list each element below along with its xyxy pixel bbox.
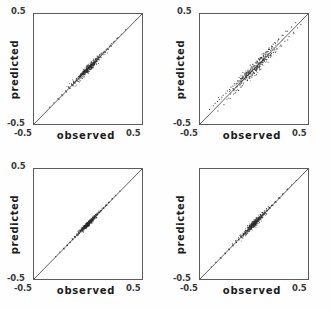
y-tick-min-label: -0.5 (173, 273, 191, 283)
y-tick-min-label: -0.5 (7, 273, 25, 283)
y-tick-max-label: 0.5 (177, 6, 191, 16)
x-tick-max-label: 0.5 (292, 128, 306, 138)
y-tick-min-label: -0.5 (173, 118, 191, 128)
x-tick-max-label: 0.5 (126, 283, 140, 293)
y-axis-title: predicted (175, 33, 186, 107)
y-tick-max-label: 0.5 (11, 161, 25, 171)
y-tick-min-label: -0.5 (7, 118, 25, 128)
plot-frame (33, 168, 143, 280)
scatter-points-group (49, 29, 126, 107)
scatter-canvas-2 (34, 169, 142, 279)
plot-area (34, 14, 142, 124)
scatter-canvas-0 (34, 14, 142, 124)
panel-top-left: 0.5 -0.5 predicted -0.5 0.5 observed (0, 0, 165, 154)
x-tick-max-label: 0.5 (126, 128, 140, 138)
scatter-canvas-3 (200, 169, 308, 279)
panel-top-right: 0.5 -0.5 predicted -0.5 0.5 observed (166, 0, 331, 154)
x-tick-min-label: -0.5 (14, 128, 32, 138)
scatter-panel-figure: 0.5 -0.5 predicted -0.5 0.5 observed 0.5… (0, 0, 331, 309)
plot-frame (199, 168, 309, 280)
scatter-points-group (209, 22, 301, 111)
identity-line (200, 14, 308, 124)
x-axis-title: observed (46, 130, 126, 141)
plot-area (200, 169, 308, 279)
x-tick-max-label: 0.5 (292, 283, 306, 293)
x-tick-min-label: -0.5 (180, 128, 198, 138)
y-tick-max-label: 0.5 (11, 6, 25, 16)
panel-bottom-left: 0.5 -0.5 predicted -0.5 0.5 observed (0, 155, 165, 309)
scatter-canvas-1 (200, 14, 308, 124)
plot-area (34, 169, 142, 279)
x-tick-min-label: -0.5 (14, 283, 32, 293)
x-axis-title: observed (212, 285, 292, 296)
plot-frame (199, 13, 309, 125)
x-axis-title: observed (46, 285, 126, 296)
y-axis-title: predicted (9, 33, 20, 107)
y-axis-title: predicted (175, 188, 186, 262)
scatter-points-group (211, 180, 297, 267)
plot-frame (33, 13, 143, 125)
plot-area (200, 14, 308, 124)
y-axis-title: predicted (9, 188, 20, 262)
x-axis-title: observed (212, 130, 292, 141)
x-tick-min-label: -0.5 (180, 283, 198, 293)
panel-bottom-right: 0.5 -0.5 predicted -0.5 0.5 observed (166, 155, 331, 309)
